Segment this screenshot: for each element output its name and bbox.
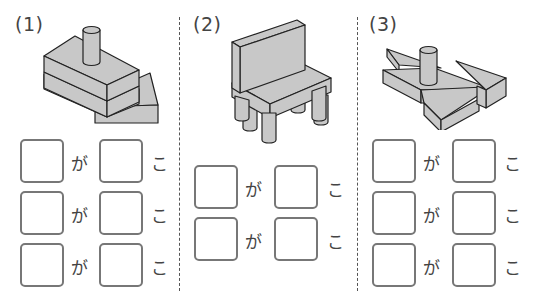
problem-3-row-2-particle: が xyxy=(423,202,440,227)
problem-2-row-2-count-input[interactable] xyxy=(274,217,318,261)
problem-3-row-1-count-input[interactable] xyxy=(452,139,496,183)
problem-1-row-3-particle: が xyxy=(71,254,88,279)
problem-1-row-1-count-input[interactable] xyxy=(99,139,143,183)
problem-3-figure-blocks-icon xyxy=(359,0,536,130)
problem-3-row-1-counter: こ xyxy=(504,150,521,175)
problem-1-row-1-particle: が xyxy=(71,150,88,175)
problem-1-row-2-particle: が xyxy=(71,202,88,227)
problem-3-row-1-particle: が xyxy=(423,150,440,175)
panel-divider-1 xyxy=(179,17,180,291)
problem-3-row-3-particle: が xyxy=(423,254,440,279)
problem-1-row-3-count-input[interactable] xyxy=(99,243,143,287)
problem-2-figure-chair-icon xyxy=(181,0,356,165)
problem-1-row-3-counter: こ xyxy=(151,254,168,279)
problem-3-row-3-count-input[interactable] xyxy=(452,243,496,287)
problem-2-row-2-counter: こ xyxy=(327,228,344,253)
problem-2-row-2-shape-input[interactable] xyxy=(194,217,238,261)
problem-1-figure-blocks-icon xyxy=(0,0,178,130)
problem-3-row-2-counter: こ xyxy=(504,202,521,227)
problem-2-row-1-count-input[interactable] xyxy=(274,165,318,209)
problem-3-row-3-counter: こ xyxy=(504,254,521,279)
problem-1: (1) が こ が こ が こ xyxy=(0,0,178,307)
panel-divider-2 xyxy=(357,17,358,291)
problem-3-row-2-shape-input[interactable] xyxy=(372,191,416,235)
problem-2-row-1-counter: こ xyxy=(327,176,344,201)
problem-2: (2) が こ が こ xyxy=(181,0,356,307)
problem-1-row-2-counter: こ xyxy=(151,202,168,227)
problem-1-row-1-counter: こ xyxy=(151,150,168,175)
problem-3-row-3-shape-input[interactable] xyxy=(372,243,416,287)
problem-1-row-2-shape-input[interactable] xyxy=(20,191,64,235)
problem-2-row-2-particle: が xyxy=(245,228,262,253)
problem-1-row-1-shape-input[interactable] xyxy=(20,139,64,183)
problem-2-row-1-particle: が xyxy=(245,176,262,201)
problem-3-row-1-shape-input[interactable] xyxy=(372,139,416,183)
problem-3: (3) が こ が こ が こ xyxy=(359,0,536,307)
problem-1-row-3-shape-input[interactable] xyxy=(20,243,64,287)
problem-2-row-1-shape-input[interactable] xyxy=(194,165,238,209)
problem-3-row-2-count-input[interactable] xyxy=(452,191,496,235)
problem-1-row-2-count-input[interactable] xyxy=(99,191,143,235)
